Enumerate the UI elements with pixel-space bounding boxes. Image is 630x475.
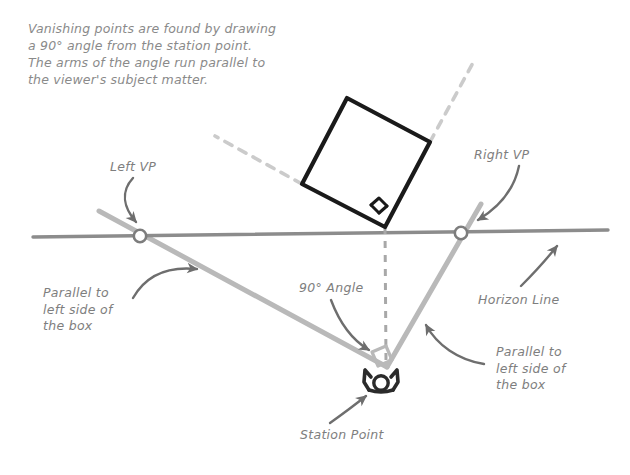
parallel-left-arrow — [133, 268, 197, 298]
right-vp-arrow — [478, 166, 519, 220]
label-station-point: Station Point — [300, 427, 384, 444]
station-right-angle-marker — [372, 346, 392, 366]
parallel-right-arrow — [426, 325, 484, 364]
label-horizon-line: Horizon Line — [478, 292, 559, 309]
horizon-line — [33, 230, 608, 237]
intro-note: Vanishing points are found by drawing a … — [28, 20, 276, 88]
dashed-extension-left-line — [215, 136, 302, 184]
dashed-extension-right-line — [430, 61, 474, 142]
label-right-vp: Right VP — [474, 147, 529, 164]
plumb-dashed-line — [385, 227, 386, 361]
left-vp-point[interactable] — [134, 230, 146, 242]
box-shape — [302, 98, 430, 227]
label-left-vp: Left VP — [110, 159, 156, 176]
label-90-degree-angle: 90° Angle — [299, 280, 363, 297]
horizon-line-arrow — [521, 246, 557, 286]
station-point-figure-icon — [364, 370, 398, 392]
label-parallel-right: Parallel to left side of the box — [496, 344, 566, 394]
label-parallel-left: Parallel to left side of the box — [43, 285, 113, 335]
station-point-arrow — [330, 396, 366, 423]
right-vp-point[interactable] — [455, 227, 467, 239]
left-vp-arrow — [125, 178, 136, 222]
